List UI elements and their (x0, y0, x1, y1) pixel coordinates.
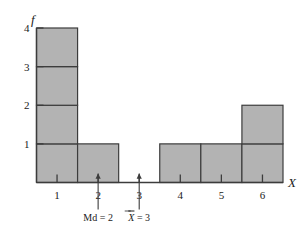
histogram-plot: 1234 123456 f X Md = 2X = 3 (0, 0, 307, 241)
y-axis-tick-label: 1 (24, 138, 30, 150)
y-axis-tick-label: 4 (24, 22, 30, 34)
annotation-label: X = 3 (127, 212, 150, 223)
frequency-histogram-figure: 1234 123456 f X Md = 2X = 3 (0, 0, 307, 241)
x-axis-tick-label: 6 (260, 189, 266, 201)
bar-unit-cell (37, 28, 78, 67)
bar (242, 105, 283, 182)
x-axis-title: X (287, 175, 297, 190)
bar-unit-cell (242, 105, 283, 144)
x-axis-tick-label: 1 (54, 189, 60, 201)
x-axis-tick-label: 4 (178, 189, 184, 201)
y-axis-tick-label: 2 (24, 99, 30, 111)
bar-unit-cell (37, 67, 78, 106)
annotation-label: Md = 2 (83, 212, 113, 223)
x-axis-tick-label: 5 (219, 189, 225, 201)
y-axis-tick-label: 3 (24, 61, 30, 73)
bar-unit-cell (37, 105, 78, 144)
